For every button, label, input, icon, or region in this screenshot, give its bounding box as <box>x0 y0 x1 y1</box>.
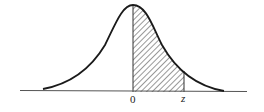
origin-label: 0 <box>130 94 136 105</box>
x-axis <box>20 91 247 92</box>
z-label: z <box>181 93 185 104</box>
